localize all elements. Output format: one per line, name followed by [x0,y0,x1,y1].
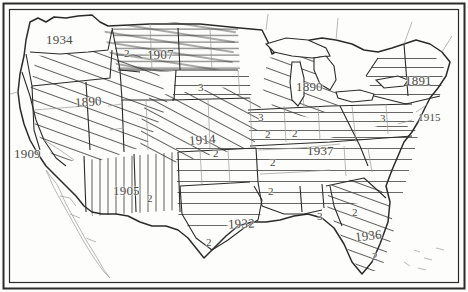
map-figure: 1934 1907 1890 1890 1891 1915 1909 1914 … [0,0,468,292]
lake-michigan [290,62,304,106]
map-drawing [0,0,468,292]
zone-1905-southwest [84,152,178,216]
